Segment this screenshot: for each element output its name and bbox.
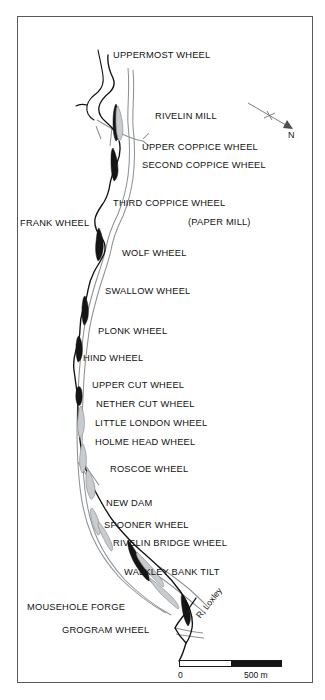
scale-bar-segment-dark — [231, 661, 282, 666]
site-label-wolf-wheel: WOLF WHEEL — [122, 249, 187, 258]
site-label-spooner-wheel: SPOONER WHEEL — [104, 521, 189, 530]
site-label-paper-mill: (PAPER MILL) — [188, 218, 251, 227]
site-label-hind-wheel: HIND WHEEL — [83, 354, 143, 363]
scale-bar-max-label: 500 m — [244, 670, 268, 680]
map-artwork — [0, 0, 325, 700]
site-label-second-coppice-wheel: SECOND COPPICE WHEEL — [142, 161, 266, 170]
site-label-mousehole-forge: MOUSEHOLE FORGE — [27, 603, 125, 612]
north-arrow-label: N — [288, 130, 295, 140]
site-label-upper-cut-wheel: UPPER CUT WHEEL — [92, 381, 184, 390]
site-label-nether-cut-wheel: NETHER CUT WHEEL — [96, 400, 195, 409]
scale-bar — [179, 660, 282, 667]
site-label-rivelin-mill: RIVELIN MILL — [155, 112, 217, 121]
site-label-walkley-bank-tilt: WALKLEY BANK TILT — [124, 568, 220, 577]
site-label-upper-coppice-wheel: UPPER COPPICE WHEEL — [142, 143, 258, 152]
site-label-uppermost-wheel: UPPERMOST WHEEL — [113, 51, 210, 60]
site-label-new-dam: NEW DAM — [106, 499, 152, 508]
site-label-third-coppice-wheel: THIRD COPPICE WHEEL — [113, 199, 225, 208]
site-label-grogram-wheel: GROGRAM WHEEL — [62, 626, 149, 635]
rivelin-mills-map: UPPERMOST WHEEL RIVELIN MILL UPPER COPPI… — [0, 0, 325, 700]
scale-bar-zero-label: 0 — [178, 670, 183, 680]
scale-bar-segment-light — [180, 661, 231, 666]
site-label-roscoe-wheel: ROSCOE WHEEL — [110, 465, 188, 474]
site-label-holme-head-wheel: HOLME HEAD WHEEL — [95, 438, 195, 447]
site-label-swallow-wheel: SWALLOW WHEEL — [105, 287, 190, 296]
site-label-rivelin-bridge-wheel: RIVELIN BRIDGE WHEEL — [113, 539, 227, 548]
site-label-frank-wheel: FRANK WHEEL — [20, 219, 89, 228]
site-label-little-london-wheel: LITTLE LONDON WHEEL — [95, 419, 207, 428]
north-arrow-icon — [248, 103, 293, 129]
site-label-plonk-wheel: PLONK WHEEL — [98, 327, 167, 336]
